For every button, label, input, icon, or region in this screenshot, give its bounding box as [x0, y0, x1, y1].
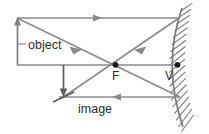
ray-diagram-canvas: object image F V [0, 0, 209, 134]
reflected-through-focus-ray [62, 18, 179, 98]
object-label: object [28, 38, 62, 52]
incident-through-focus-ray [17, 18, 180, 97]
optics-ray-diagram: object image F V [0, 0, 209, 134]
focal-point-dot [113, 62, 119, 68]
incident-parallel-ray [17, 15, 179, 22]
arrowhead-left-icon [112, 94, 121, 101]
vertex-point-dot [175, 62, 181, 68]
object-arrow [14, 17, 21, 65]
vertex-label: V [165, 69, 173, 83]
focal-point-label: F [112, 69, 119, 83]
hatch-line [182, 115, 194, 132]
reflected-parallel-ray [59, 94, 180, 101]
reflected-through-focus-ray-line [62, 18, 179, 98]
arrowhead-right-icon [93, 15, 102, 22]
incident-through-focus-ray-line [17, 18, 180, 97]
image-label: image [78, 102, 112, 116]
image-arrow [60, 65, 67, 98]
